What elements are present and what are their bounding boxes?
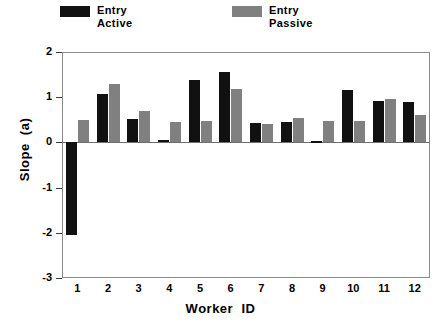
bar-entry-active-worker-4 bbox=[158, 140, 169, 142]
y-axis-tick-label: 1 bbox=[12, 91, 52, 102]
bar-entry-active-worker-11 bbox=[373, 101, 384, 143]
plot-area bbox=[62, 52, 430, 278]
bar-entry-active-worker-1 bbox=[66, 142, 77, 235]
legend-label-entry-passive-line2: Passive bbox=[269, 17, 313, 29]
chart-legend: EntryActive EntryPassive bbox=[0, 0, 441, 40]
legend-swatch-entry-passive bbox=[232, 6, 262, 17]
y-axis-tick bbox=[56, 278, 62, 279]
y-axis-tick-label: 2 bbox=[12, 46, 52, 57]
legend-label-entry-passive: EntryPassive bbox=[269, 4, 313, 30]
bar-entry-active-worker-6 bbox=[219, 72, 230, 142]
bar-entry-active-worker-2 bbox=[97, 94, 108, 143]
bar-entry-passive-worker-12 bbox=[415, 115, 426, 142]
y-axis-tick-label: 0 bbox=[12, 136, 52, 147]
bar-entry-passive-worker-1 bbox=[78, 120, 89, 143]
bar-entry-passive-worker-6 bbox=[231, 89, 242, 142]
bar-chart-figure: EntryActive EntryPassive Slope (a) 210-1… bbox=[0, 0, 441, 325]
bar-entry-passive-worker-8 bbox=[293, 118, 304, 143]
legend-item-entry-passive: EntryPassive bbox=[232, 4, 313, 30]
bar-entry-passive-worker-3 bbox=[139, 111, 150, 143]
bar-entry-passive-worker-9 bbox=[323, 121, 334, 143]
x-axis-tick-label: 1 bbox=[62, 283, 92, 294]
legend-swatch-entry-active bbox=[60, 6, 90, 17]
bar-entry-active-worker-9 bbox=[311, 141, 322, 143]
x-axis-tick-label: 8 bbox=[277, 283, 307, 294]
x-axis-tick-label: 4 bbox=[154, 283, 184, 294]
legend-label-entry-active-line1: Entry bbox=[97, 4, 127, 16]
bar-entry-active-worker-12 bbox=[403, 102, 414, 143]
bar-entry-active-worker-3 bbox=[127, 119, 138, 143]
x-axis-tick-label: 6 bbox=[216, 283, 246, 294]
y-axis-tick-label: -1 bbox=[12, 182, 52, 193]
bar-entry-active-worker-7 bbox=[250, 123, 261, 142]
bar-entry-active-worker-10 bbox=[342, 90, 353, 142]
bar-entry-passive-worker-10 bbox=[354, 121, 365, 143]
x-axis-tick-label: 11 bbox=[369, 283, 399, 294]
x-axis-tick-label: 2 bbox=[93, 283, 123, 294]
bar-entry-passive-worker-7 bbox=[262, 124, 273, 142]
legend-item-entry-active: EntryActive bbox=[60, 4, 132, 30]
bar-entry-active-worker-8 bbox=[281, 122, 292, 142]
bar-entry-passive-worker-2 bbox=[109, 84, 120, 143]
legend-label-entry-passive-line1: Entry bbox=[269, 4, 299, 16]
x-axis-tick-label: 10 bbox=[338, 283, 368, 294]
legend-label-entry-active: EntryActive bbox=[97, 4, 132, 30]
x-axis-tick-label: 5 bbox=[185, 283, 215, 294]
bar-entry-passive-worker-11 bbox=[385, 99, 396, 142]
x-axis-title: Worker ID bbox=[0, 301, 441, 316]
x-axis-tick-label: 9 bbox=[308, 283, 338, 294]
y-axis-tick-label: -3 bbox=[12, 272, 52, 283]
bar-entry-active-worker-5 bbox=[189, 80, 200, 142]
bar-entry-passive-worker-5 bbox=[201, 121, 212, 142]
y-axis-tick-label: -2 bbox=[12, 227, 52, 238]
legend-label-entry-active-line2: Active bbox=[97, 17, 132, 29]
x-axis-tick-label: 12 bbox=[400, 283, 430, 294]
x-axis-tick-label: 7 bbox=[246, 283, 276, 294]
zero-baseline bbox=[62, 142, 430, 143]
bar-entry-passive-worker-4 bbox=[170, 122, 181, 142]
x-axis-tick-label: 3 bbox=[124, 283, 154, 294]
